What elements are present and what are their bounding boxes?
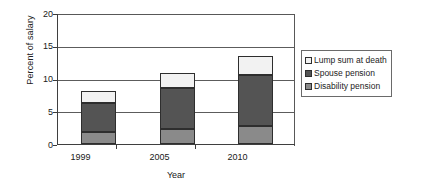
y-tick-label-15: 15 <box>33 42 53 51</box>
legend-swatch-icon-lump-sum <box>305 57 312 64</box>
x-tick-label-2005: 2005 <box>130 152 190 162</box>
bar-segment-spouse-2005 <box>160 88 195 129</box>
x-tick-label-2010: 2010 <box>208 152 268 162</box>
bar-2005 <box>160 73 195 144</box>
y-tick-label-20: 20 <box>33 10 53 19</box>
bar-segment-lump-sum-2010 <box>238 56 273 75</box>
x-axis-title: Year <box>57 170 295 180</box>
legend-swatch-icon-spouse <box>305 70 312 77</box>
y-tick-mark-0 <box>53 145 57 146</box>
y-tick-label-0: 0 <box>33 141 53 150</box>
bar-segment-lump-sum-1999 <box>81 91 116 103</box>
chart-legend: Lump sum at death Spouse pension Disabil… <box>301 50 392 97</box>
x-tick-label-1999: 1999 <box>51 152 111 162</box>
bar-segment-lump-sum-2005 <box>160 73 195 87</box>
legend-label-lump-sum: Lump sum at death <box>314 56 387 65</box>
bar-segment-disability-1999 <box>81 132 116 144</box>
y-tick-label-5: 5 <box>33 108 53 117</box>
legend-item-lump-sum-at-death: Lump sum at death <box>305 54 387 67</box>
bar-1999 <box>81 91 116 144</box>
x-tick-mark-2 <box>195 145 196 149</box>
bar-segment-disability-2010 <box>238 126 273 144</box>
bar-2010 <box>238 56 273 144</box>
legend-label-spouse: Spouse pension <box>314 69 375 78</box>
bar-segment-spouse-1999 <box>81 103 116 133</box>
bar-segment-spouse-2010 <box>238 75 273 125</box>
plot-area <box>57 14 295 145</box>
y-tick-label-10: 10 <box>33 75 53 84</box>
bar-segment-disability-2005 <box>160 129 195 144</box>
stacked-bar-chart: Percent of salary 20 15 10 5 0 <box>0 0 429 186</box>
legend-swatch-icon-disability <box>305 83 312 90</box>
legend-label-disability: Disability pension <box>314 82 380 91</box>
x-tick-mark-1 <box>116 145 117 149</box>
legend-item-disability-pension: Disability pension <box>305 80 387 93</box>
legend-item-spouse-pension: Spouse pension <box>305 67 387 80</box>
